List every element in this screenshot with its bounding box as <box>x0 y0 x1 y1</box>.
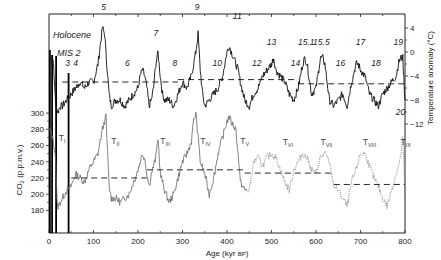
left-axis-title-unit: (p.p.m.v.) <box>15 144 24 180</box>
marine-isotope-stage-label: 20 <box>395 107 406 117</box>
termination-label: TIV <box>200 136 211 147</box>
temp-tick-label: −4 <box>410 72 420 81</box>
marine-isotope-stage-label: 7 <box>153 28 158 38</box>
co2-tick-label: 300 <box>31 109 45 118</box>
temp-tick-label: −8 <box>410 96 420 105</box>
marine-isotope-stage-label: 11 <box>233 11 242 21</box>
x-tick-label: 700 <box>354 237 368 246</box>
termination-label: TVIII <box>363 137 377 148</box>
co2-tick-label: 260 <box>31 141 45 150</box>
marine-isotope-stage-label: 5 <box>101 2 106 12</box>
marine-isotope-stage-label: 8 <box>173 58 178 68</box>
ice-core-chart: 0100200300400500600700800180200220240260… <box>0 0 441 260</box>
termination-label: TI <box>59 133 66 144</box>
marine-isotope-stage-label: 16 <box>336 58 346 68</box>
x-tick-label: 200 <box>131 237 145 246</box>
x-tick-label: 100 <box>87 237 101 246</box>
termination-label: TIII <box>160 136 170 147</box>
marine-isotope-stage-label: 12 <box>252 58 262 68</box>
marine-isotope-stage-label: 4 <box>73 58 78 68</box>
termination-label: TIX <box>401 137 412 148</box>
x-axis-title-bp: BP <box>238 251 246 257</box>
termination-label: TII <box>111 136 120 147</box>
marine-isotope-stage-label: 9 <box>195 2 200 12</box>
x-axis-title-main: Age (kyr <box>206 249 236 258</box>
temperature-line <box>49 27 405 114</box>
temp-tick-label: −12 <box>410 120 424 129</box>
marine-isotope-stage-label: 15.5 <box>313 37 330 47</box>
temp-tick-label: 4 <box>410 24 415 33</box>
co2-series <box>49 112 405 209</box>
co2-line <box>49 112 247 209</box>
x-tick-label: 800 <box>398 237 412 246</box>
left-axis-title-co: CO <box>15 183 24 195</box>
co2-tick-label: 240 <box>31 158 45 167</box>
marine-isotope-stage-label: 10 <box>212 58 222 68</box>
x-tick-label: 400 <box>220 237 234 246</box>
marine-isotope-stage-label: 3 <box>65 58 70 68</box>
marine-isotope-stage-label: 6 <box>125 58 130 68</box>
holocene-label: Holocene <box>53 30 91 40</box>
marine-isotope-stage-label: 19 <box>394 37 404 47</box>
termination-label: TV <box>240 136 249 147</box>
x-tick-label: 300 <box>176 237 190 246</box>
x-axis-title: Age (kyr BP) <box>206 249 249 258</box>
right-axis-title: Temperature anomaly (°C) <box>426 31 435 125</box>
temp-tick-label: 0 <box>410 48 415 57</box>
x-tick-label: 600 <box>309 237 323 246</box>
x-axis-title-close: ) <box>246 249 249 258</box>
mis2-label: MIS 2 <box>57 48 81 58</box>
x-tick-label: 500 <box>265 237 279 246</box>
co2-tick-label: 180 <box>31 206 45 215</box>
marine-isotope-stage-label: 13 <box>267 37 277 47</box>
co2-tick-label: 220 <box>31 174 45 183</box>
marine-isotope-stage-label: 17 <box>356 37 366 47</box>
marine-isotope-stage-label: 18 <box>371 58 381 68</box>
termination-label: TVII <box>320 137 332 148</box>
marine-isotope-stage-label: 14 <box>291 58 301 68</box>
x-tick-label: 0 <box>47 237 52 246</box>
co2-tick-label: 200 <box>31 190 45 199</box>
co2-tick-label: 280 <box>31 125 45 134</box>
axes: 0100200300400500600700800180200220240260… <box>31 24 424 246</box>
temperature-series <box>49 27 405 114</box>
left-axis-title: CO2 (p.p.m.v.) <box>15 144 25 195</box>
termination-label: TVI <box>283 137 294 148</box>
